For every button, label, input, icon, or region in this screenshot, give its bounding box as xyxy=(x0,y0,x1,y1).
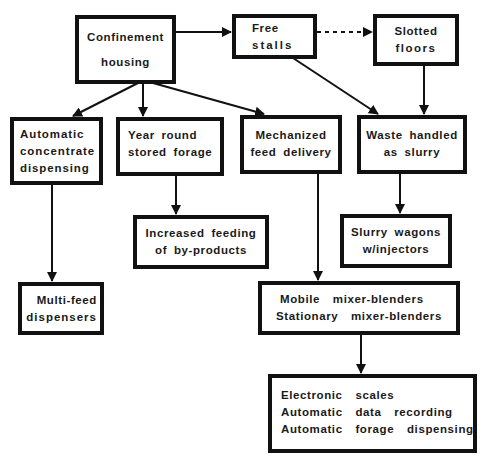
node-slurry-wagons-with-injectors: Slurry wagons w/injectors xyxy=(340,214,452,268)
node-waste-handled-as-slurry: Waste handled as slurry xyxy=(357,115,467,174)
node-text: dispensers xyxy=(22,309,97,326)
node-confinement-housing: Confinement housing xyxy=(75,15,176,84)
node-text: Waste handled xyxy=(361,127,463,144)
edge-confinement-autoconc xyxy=(73,83,138,116)
node-text: Mobile mixer-blenders xyxy=(276,291,456,308)
node-text: as slurry xyxy=(361,144,463,161)
node-text: dispensing xyxy=(20,160,99,177)
node-text: stored forage xyxy=(128,144,220,161)
node-text: Automatic data recording xyxy=(281,404,473,421)
node-multi-feed-dispensers: Multi-feed dispensers xyxy=(18,282,104,335)
node-text: Stationary mixer-blenders xyxy=(276,308,456,325)
node-mechanized-feed-delivery: Mechanized feed delivery xyxy=(240,115,342,174)
node-increased-feeding-of-byproducts: Increased feeding of by-products xyxy=(133,215,269,269)
node-text: concentrate xyxy=(20,143,99,160)
edge-confinement-mechanized xyxy=(153,83,264,114)
node-text: housing xyxy=(79,50,172,75)
node-text: Automatic xyxy=(20,126,99,143)
node-text: Free xyxy=(252,20,313,37)
node-text: Year round xyxy=(128,127,220,144)
node-slotted-floors: Slotted floors xyxy=(373,14,459,66)
edge-freestalls-waste xyxy=(293,58,378,114)
node-text: feed delivery xyxy=(244,144,338,161)
node-text: Increased feeding xyxy=(137,225,265,242)
node-electronic-scales-data-forage: Electronic scales Automatic data recordi… xyxy=(268,374,477,453)
node-mixer-blenders: Mobile mixer-blenders Stationary mixer-b… xyxy=(258,281,460,335)
node-text: Electronic scales xyxy=(281,387,473,404)
node-text: floors xyxy=(377,40,455,57)
node-text: Multi-feed xyxy=(22,292,97,309)
node-text: Mechanized xyxy=(244,127,338,144)
node-text: stalls xyxy=(252,37,313,54)
node-text: of by-products xyxy=(137,242,265,259)
node-automatic-concentrate-dispensing: Automatic concentrate dispensing xyxy=(10,117,103,185)
node-text: Slurry wagons xyxy=(344,224,448,241)
node-text: Automatic forage dispensing xyxy=(281,421,473,438)
node-text: Slotted xyxy=(377,23,455,40)
node-free-stalls: Free stalls xyxy=(232,14,317,59)
node-year-round-stored-forage: Year round stored forage xyxy=(116,117,224,176)
node-text: Confinement xyxy=(79,25,172,50)
node-text: w/injectors xyxy=(344,241,448,258)
